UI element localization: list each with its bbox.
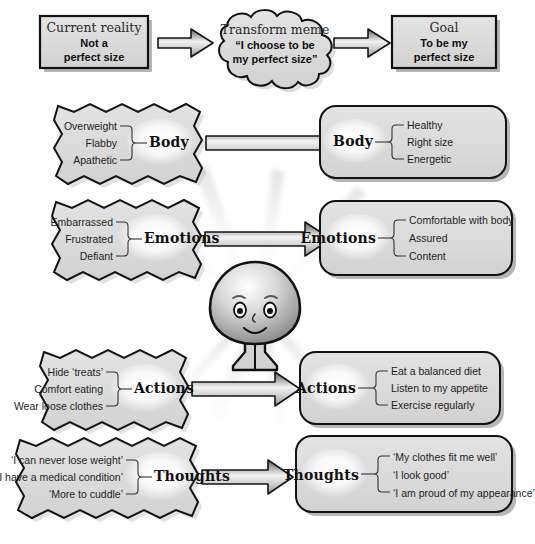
emotions-right-category-label: Emotions xyxy=(300,230,376,246)
emotions-left-item-2: Frustrated xyxy=(65,233,113,245)
thoughts-right-item-1: ‘My clothes fit me well’ xyxy=(393,451,497,463)
body-right-item-1: Healthy xyxy=(407,119,443,131)
emotions-right-item-2: Assured xyxy=(409,232,448,244)
arrow-transform-to-goal xyxy=(334,29,390,57)
transform-meme-line1: “I choose to be xyxy=(235,39,314,51)
goal-line1: To be my xyxy=(420,37,467,49)
current-reality-line2: perfect size xyxy=(64,51,125,63)
actions-left-item-2: Comfort eating xyxy=(34,383,103,395)
body-left-item-1: Overweight xyxy=(64,120,117,132)
actions-left-category-label: Actions xyxy=(134,380,194,396)
body-right-item-2: Right size xyxy=(407,136,453,148)
current-reality-title: Current reality xyxy=(47,20,142,35)
thoughts-right-category-label: Thoughts xyxy=(283,467,359,483)
goal-line2: perfect size xyxy=(414,51,475,63)
emotions-left-item-1: Embarrassed xyxy=(51,216,113,228)
emotions-right-item-3: Content xyxy=(409,250,446,262)
actions-left-item-1: Hide ‘treats’ xyxy=(48,366,103,378)
actions-right-category-label: Actions xyxy=(296,380,356,396)
arrow-current-to-transform xyxy=(158,29,213,57)
actions-right-item-1: Eat a balanced diet xyxy=(391,365,481,377)
goal-title: Goal xyxy=(430,20,459,35)
thoughts-left-item-3: ‘More to cuddle’ xyxy=(49,488,123,500)
actions-left-item-3: Wear loose clothes xyxy=(14,400,103,412)
emotions-right-item-1: Comfortable with body xyxy=(409,214,513,226)
smiling-person-figure xyxy=(210,262,300,370)
body-left-category-label: Body xyxy=(149,134,189,150)
transform-meme-line2: my perfect size” xyxy=(233,53,318,65)
thoughts-left-item-2: ‘I have a medical condition’ xyxy=(0,471,123,483)
thoughts-left-category-label: Thoughts xyxy=(154,468,230,484)
actions-right-item-3: Exercise regularly xyxy=(391,399,474,411)
thoughts-right-item-3: ‘I am proud of my appearance’ xyxy=(393,487,535,499)
thoughts-right-item-2: ‘I look good’ xyxy=(393,469,449,481)
body-right-item-3: Energetic xyxy=(407,153,451,165)
emotions-left-category-label: Emotions xyxy=(144,230,220,246)
transform-meme-title: Transform meme xyxy=(221,22,330,37)
actions-right-item-2: Listen to my appetite xyxy=(391,382,488,394)
current-reality-line1: Not a xyxy=(80,37,108,49)
thoughts-left-item-1: ‘I can never lose weight’ xyxy=(11,454,123,466)
arrow-actions xyxy=(192,372,300,406)
body-left-item-2: Flabby xyxy=(85,137,117,149)
body-left-item-3: Apathetic xyxy=(73,154,117,166)
emotions-left-item-3: Defiant xyxy=(80,250,113,262)
body-right-category-label: Body xyxy=(333,133,373,149)
